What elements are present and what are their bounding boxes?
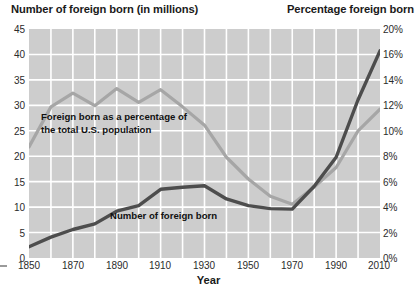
x-tick-1870: 1870 — [53, 260, 93, 271]
percentage-annotation-line-1: Foreign born as a percentage of — [41, 110, 187, 123]
x-tick-1950: 1950 — [228, 260, 268, 271]
foreign-born-chart: Number of foreign born (in millions) Per… — [0, 0, 417, 298]
right-tick-6pct: 6% — [383, 177, 415, 188]
right-axis-title: Percentage foreign born — [287, 3, 414, 15]
x-tick-1970: 1970 — [272, 260, 312, 271]
left-tick-25: 25 — [1, 126, 25, 137]
right-tick-10pct: 10% — [383, 126, 415, 137]
right-tick-8pct: 8% — [383, 151, 415, 162]
gridlines — [29, 29, 380, 258]
right-tick-2pct: 2% — [383, 228, 415, 239]
left-tick-45: 45 — [1, 24, 25, 35]
right-tick-20pct: 20% — [383, 24, 415, 35]
x-tick-1890: 1890 — [97, 260, 137, 271]
x-tick-2010: 2010 — [359, 260, 399, 271]
right-tick-14pct: 14% — [383, 75, 415, 86]
x-tick-1910: 1910 — [140, 260, 180, 271]
left-tick-10: 10 — [1, 202, 25, 213]
left-tick-30: 30 — [1, 100, 25, 111]
plot-area — [29, 29, 380, 258]
left-axis-title: Number of foreign born (in millions) — [11, 3, 198, 15]
percentage-annotation-line-2: the total U.S. population — [41, 123, 187, 136]
right-tick-4pct: 4% — [383, 202, 415, 213]
plot-svg — [29, 29, 380, 258]
x-tick-1930: 1930 — [184, 260, 224, 271]
right-tick-16pct: 16% — [383, 49, 415, 60]
left-tick-40: 40 — [1, 49, 25, 60]
x-axis-title: Year — [0, 274, 417, 286]
left-tick-35: 35 — [1, 75, 25, 86]
number-series-annotation: Number of foreign born — [110, 209, 217, 222]
x-tick-1850: 1850 — [9, 260, 49, 271]
percentage-series-annotation: Foreign born as a percentage of the tota… — [41, 110, 187, 136]
x-tick-1990: 1990 — [316, 260, 356, 271]
left-edge-stub — [0, 265, 7, 267]
left-tick-15: 15 — [1, 177, 25, 188]
left-tick-5: 5 — [1, 228, 25, 239]
left-tick-20: 20 — [1, 151, 25, 162]
right-tick-12pct: 12% — [383, 100, 415, 111]
